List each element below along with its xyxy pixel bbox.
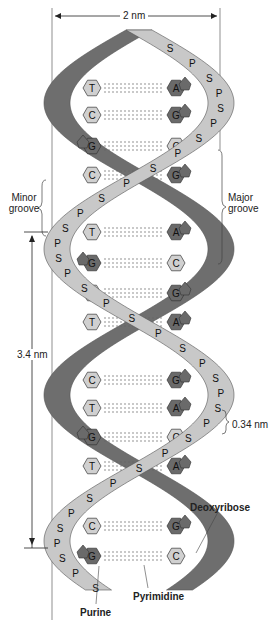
svg-text:S: S	[136, 463, 143, 474]
svg-text:C: C	[88, 110, 95, 121]
svg-text:P: P	[203, 418, 210, 429]
svg-text:G: G	[88, 432, 96, 443]
svg-text:T: T	[89, 317, 95, 328]
svg-text:C: C	[172, 551, 179, 562]
svg-text:P: P	[68, 508, 75, 519]
svg-text:T: T	[89, 403, 95, 414]
svg-text:G: G	[88, 551, 96, 562]
svg-text:S: S	[185, 433, 192, 444]
svg-text:S: S	[206, 73, 213, 84]
svg-text:C: C	[88, 170, 95, 181]
svg-text:P: P	[123, 178, 130, 189]
rise-label: 0.34 nm	[232, 419, 268, 430]
svg-text:S: S	[214, 403, 221, 414]
helix-artwork: TACGGCCGTAGCCGTACGTAGCTACGGCSPSPSPSPSPSP…	[0, 0, 278, 630]
svg-text:S: S	[62, 223, 69, 234]
major-groove-label-line1: Major	[228, 192, 259, 203]
svg-text:S: S	[150, 163, 157, 174]
pyrimidine-label: Pyrimidine	[133, 591, 184, 602]
svg-text:P: P	[77, 208, 84, 219]
minor-groove-label-line1: Minor	[6, 192, 42, 203]
svg-text:P: P	[64, 268, 71, 279]
svg-text:G: G	[88, 258, 96, 269]
svg-text:P: P	[110, 478, 117, 489]
svg-text:T: T	[89, 461, 95, 472]
svg-text:P: P	[216, 88, 223, 99]
svg-text:P: P	[162, 448, 169, 459]
svg-text:P: P	[189, 58, 196, 69]
svg-text:A: A	[173, 317, 180, 328]
svg-text:C: C	[172, 258, 179, 269]
svg-text:P: P	[54, 238, 61, 249]
svg-text:G: G	[172, 288, 180, 299]
pitch-label: 3.4 nm	[17, 349, 48, 360]
svg-text:P: P	[218, 388, 225, 399]
svg-text:G: G	[172, 110, 180, 121]
svg-text:P: P	[199, 358, 206, 369]
svg-text:G: G	[172, 521, 180, 532]
svg-text:S: S	[81, 283, 88, 294]
dna-double-helix-diagram: TACGGCCGTAGCCGTACGTAGCTACGGCSPSPSPSPSPSP…	[0, 0, 278, 630]
svg-text:S: S	[57, 523, 64, 534]
svg-text:S: S	[98, 193, 105, 204]
minor-groove-label: Minor groove	[6, 192, 42, 214]
svg-text:S: S	[167, 43, 174, 54]
svg-text:P: P	[54, 538, 61, 549]
svg-text:S: S	[212, 373, 219, 384]
svg-text:C: C	[88, 521, 95, 532]
svg-text:P: P	[175, 148, 182, 159]
major-groove-label-line2: groove	[228, 203, 259, 214]
svg-text:P: P	[155, 328, 162, 339]
major-groove-label: Major groove	[228, 192, 259, 214]
minor-groove-label-line2: groove	[6, 203, 42, 214]
svg-text:S: S	[129, 313, 136, 324]
svg-text:P: P	[72, 568, 79, 579]
svg-text:S: S	[92, 583, 99, 594]
svg-text:G: G	[88, 141, 96, 152]
svg-text:P: P	[210, 118, 217, 129]
svg-text:S: S	[55, 253, 62, 264]
svg-text:G: G	[172, 170, 180, 181]
svg-text:T: T	[89, 227, 95, 238]
width-label: 2 nm	[120, 10, 148, 21]
deoxyribose-label: Deoxyribose	[190, 502, 250, 513]
svg-text:A: A	[173, 403, 180, 414]
svg-text:S: S	[59, 553, 66, 564]
svg-text:A: A	[173, 83, 180, 94]
svg-text:P: P	[103, 298, 110, 309]
svg-text:G: G	[172, 375, 180, 386]
svg-text:T: T	[89, 83, 95, 94]
purine-label: Purine	[80, 607, 111, 618]
svg-text:A: A	[173, 461, 180, 472]
svg-text:S: S	[217, 103, 224, 114]
svg-text:S: S	[86, 493, 93, 504]
svg-text:S: S	[195, 133, 202, 144]
svg-text:S: S	[179, 343, 186, 354]
svg-text:A: A	[173, 227, 180, 238]
svg-text:C: C	[88, 375, 95, 386]
